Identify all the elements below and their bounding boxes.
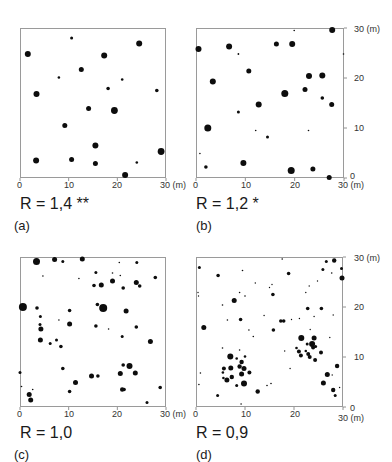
- tree-point: [55, 339, 58, 342]
- tree-point: [284, 350, 285, 351]
- tree-point: [321, 381, 326, 386]
- tree-point: [288, 167, 295, 174]
- tree-point: [86, 106, 91, 111]
- tree-point: [321, 96, 325, 100]
- tree-point: [287, 272, 291, 276]
- tree-point: [94, 324, 98, 328]
- tree-point: [34, 91, 40, 97]
- tree-point: [222, 371, 225, 374]
- tree-point: [59, 345, 63, 349]
- tree-point: [235, 384, 238, 387]
- tree-point: [281, 258, 283, 260]
- tree-point: [247, 371, 251, 375]
- tree-point: [198, 266, 201, 269]
- tree-point: [239, 349, 241, 351]
- tree-point: [58, 319, 60, 321]
- tree-point: [108, 328, 110, 330]
- tree-point: [269, 287, 270, 288]
- tree-point: [303, 87, 308, 92]
- tree-point: [266, 136, 269, 139]
- tree-point: [329, 102, 334, 107]
- tree-point: [201, 325, 206, 330]
- tree-point: [291, 319, 292, 320]
- tree-point: [321, 268, 324, 271]
- y-tick-10-b: 10: [354, 123, 364, 133]
- tree-point: [235, 357, 238, 360]
- panel-d: [196, 257, 343, 407]
- tree-point: [295, 347, 298, 350]
- tree-point: [39, 315, 42, 318]
- tree-point: [227, 354, 233, 360]
- tree-point: [199, 153, 201, 155]
- y-tick-30-b: 30 (m): [354, 24, 380, 34]
- tree-point: [99, 304, 107, 312]
- y-tick-30-d: 30 (m): [354, 253, 380, 263]
- tree-point: [329, 27, 335, 33]
- tree-point: [28, 398, 33, 403]
- x-tick-30-a: 30 (m): [160, 180, 186, 190]
- tree-point: [331, 272, 333, 274]
- r-value-label-c: R = 1,0: [20, 424, 72, 442]
- y-tick-20-d: 20: [354, 302, 364, 312]
- tree-point: [331, 388, 335, 392]
- tree-point: [320, 307, 324, 311]
- tree-point: [271, 284, 272, 285]
- tree-point: [298, 335, 304, 341]
- tree-point: [80, 257, 85, 262]
- tree-point: [61, 260, 64, 263]
- tree-point: [69, 157, 74, 162]
- tree-point: [256, 389, 260, 393]
- tree-point: [289, 368, 290, 369]
- tree-point: [228, 366, 233, 371]
- tree-point: [121, 335, 124, 338]
- tree-point: [79, 67, 84, 72]
- tree-point: [122, 388, 126, 392]
- tree-point: [68, 309, 72, 313]
- tree-point: [198, 384, 200, 386]
- y-tick-0-d: 0: [350, 403, 355, 413]
- tree-point: [138, 284, 142, 288]
- tree-point: [61, 367, 65, 371]
- tree-point: [240, 160, 246, 166]
- tree-point: [281, 90, 288, 97]
- tree-point: [335, 364, 339, 368]
- tree-point: [158, 386, 162, 390]
- x-tick-0-d: 0: [193, 409, 198, 419]
- tree-point: [313, 358, 317, 362]
- tree-point: [96, 374, 100, 378]
- tree-point: [239, 360, 243, 364]
- x-tick-10-b: 10: [241, 180, 251, 190]
- tree-point: [33, 258, 40, 265]
- tree-point: [310, 167, 315, 172]
- tree-point: [136, 41, 142, 47]
- tree-point: [255, 130, 257, 132]
- tree-point: [222, 367, 226, 371]
- tree-point: [121, 363, 125, 367]
- tree-point: [146, 401, 149, 404]
- tree-point: [92, 284, 96, 288]
- tree-point: [333, 314, 334, 315]
- tree-point: [134, 280, 139, 285]
- x-tick-20-c: 20: [112, 409, 122, 419]
- tree-point: [120, 275, 122, 277]
- x-tick-30-b: 30 (m): [338, 180, 364, 190]
- tree-point: [93, 161, 98, 166]
- tree-point: [21, 386, 23, 388]
- x-tick-20-a: 20: [112, 180, 122, 190]
- tree-point: [106, 87, 110, 91]
- panel-a: [20, 28, 166, 178]
- tree-point: [19, 303, 27, 311]
- tree-point: [196, 46, 202, 52]
- tree-point: [332, 258, 336, 262]
- tree-point: [227, 319, 229, 321]
- tree-point: [32, 389, 34, 391]
- tree-point: [73, 380, 78, 385]
- x-tick-0-a: 0: [17, 180, 22, 190]
- tree-point: [127, 363, 133, 369]
- tree-point: [253, 336, 255, 338]
- plot-area-d: [196, 257, 343, 407]
- tree-point: [216, 274, 220, 278]
- tree-point: [309, 285, 310, 286]
- tree-point: [222, 347, 224, 349]
- x-tick-0-b: 0: [193, 180, 198, 190]
